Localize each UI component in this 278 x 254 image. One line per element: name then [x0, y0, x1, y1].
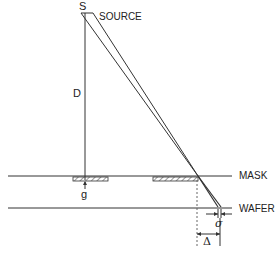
mask-absorber-right	[153, 177, 198, 181]
source-point-label: S	[79, 1, 86, 12]
diagram-drawing	[0, 0, 278, 254]
proximity-printing-diagram: S SOURCE D g MASK WAFER σ Δ	[0, 0, 278, 254]
mask-label: MASK	[239, 171, 267, 181]
gap-label: g	[81, 189, 87, 200]
mask-absorber-left	[73, 177, 108, 181]
wafer-label: WAFER	[239, 204, 275, 214]
shadow-offset-label: Δ	[203, 236, 211, 247]
source-label: SOURCE	[99, 12, 142, 22]
penumbra-label: σ	[215, 218, 223, 229]
distance-label: D	[73, 88, 81, 99]
